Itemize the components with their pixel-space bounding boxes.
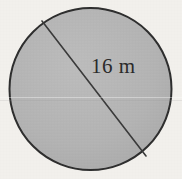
chord-measurement-label: 16 m (91, 55, 136, 77)
circle-shape (10, 8, 172, 170)
circle-diagram-svg (0, 0, 182, 179)
geometry-figure: 16 m (0, 0, 182, 179)
